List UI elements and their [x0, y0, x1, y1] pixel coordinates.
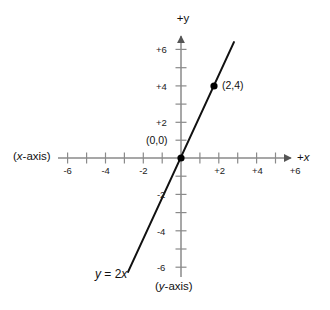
x-tick-label-pos6: +6	[290, 166, 301, 176]
x-tick-label-pos4: +4	[252, 166, 263, 176]
y-tick-label-pos6: +6	[156, 45, 167, 55]
origin-point-label: (0,0)	[146, 135, 168, 146]
y-tick-label-neg4: -4	[157, 227, 165, 237]
y-axis-arrow-label: +y	[177, 13, 189, 25]
equation-label: y = 2x	[95, 268, 127, 280]
x-tick-label-neg4: -4	[101, 166, 109, 176]
x-axis-arrow-label: +x	[297, 152, 309, 164]
x-axis-name-label: (x-axis)	[13, 151, 51, 163]
x-axis-arrow-text: x	[304, 151, 310, 163]
y-tick-label-pos4: +4	[156, 82, 167, 92]
x-tick-label-neg6: -6	[63, 166, 71, 176]
y-tick-label-neg6: -6	[157, 263, 165, 273]
point-label-2-4: (2,4)	[222, 80, 244, 91]
coordinate-plane-figure: +y +x (x-axis) (y-axis) y = 2x (0,0) (2,…	[0, 0, 330, 310]
x-tick-label-neg2: -2	[139, 166, 147, 176]
y-tick-label-neg2: -2	[157, 190, 165, 200]
x-tick-label-pos2: +2	[214, 166, 225, 176]
data-point-2-4	[210, 82, 217, 89]
y-tick-label-pos2: +2	[156, 118, 167, 128]
y-axis-arrow-text: y	[183, 12, 189, 24]
data-point-origin	[177, 154, 184, 161]
y-axis-name-label: (y-axis)	[155, 281, 193, 293]
